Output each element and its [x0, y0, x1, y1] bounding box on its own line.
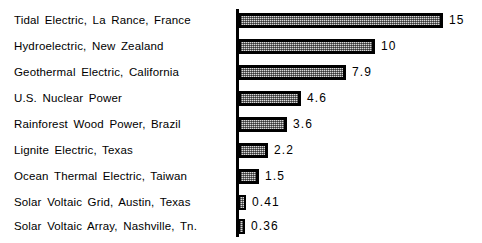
category-label: Solar Voltaic Array, Nashville, Tn. [14, 220, 230, 233]
bar-value-label: 15 [449, 14, 465, 27]
bar [238, 117, 287, 132]
chart-row: Lignite Electric, Texas 2.2 [0, 137, 482, 163]
bar-group: 2.2 [238, 137, 294, 163]
bar [238, 195, 246, 210]
chart-row: Solar Voltaic Grid, Austin, Texas 0.41 [0, 189, 482, 215]
bar-value-label: 10 [381, 40, 397, 53]
bar-group: 3.6 [238, 111, 313, 137]
bar-group: 4.6 [238, 85, 327, 111]
category-label: Tidal Electric, La Rance, France [14, 14, 230, 27]
bar-value-label: 3.6 [293, 118, 313, 131]
bar-group: 15 [238, 7, 465, 33]
bar [238, 39, 375, 54]
chart-row: Ocean Thermal Electric, Taiwan 1.5 [0, 163, 482, 189]
bar-chart: Tidal Electric, La Rance, France 15 Hydr… [0, 0, 482, 243]
category-label: Geothermal Electric, California [14, 66, 230, 79]
bar-group: 0.41 [238, 189, 280, 215]
bar-value-label: 0.36 [251, 220, 279, 233]
category-label: Ocean Thermal Electric, Taiwan [14, 170, 230, 183]
bar [238, 13, 443, 28]
chart-row: Tidal Electric, La Rance, France 15 [0, 7, 482, 33]
bar [238, 143, 268, 158]
bar [238, 65, 346, 80]
chart-row: U.S. Nuclear Power 4.6 [0, 85, 482, 111]
bar [238, 91, 301, 106]
bar [238, 219, 245, 234]
bar-value-label: 0.41 [252, 196, 280, 209]
bar-group: 0.36 [238, 213, 279, 239]
bar [238, 169, 259, 184]
bar-group: 1.5 [238, 163, 285, 189]
bar-group: 10 [238, 33, 397, 59]
category-label: U.S. Nuclear Power [14, 92, 230, 105]
bar-value-label: 1.5 [265, 170, 285, 183]
bar-value-label: 4.6 [307, 92, 327, 105]
category-label: Lignite Electric, Texas [14, 144, 230, 157]
chart-row: Solar Voltaic Array, Nashville, Tn. 0.36 [0, 213, 482, 239]
category-label: Hydroelectric, New Zealand [14, 40, 230, 53]
chart-row: Geothermal Electric, California 7.9 [0, 59, 482, 85]
bar-group: 7.9 [238, 59, 372, 85]
category-label: Solar Voltaic Grid, Austin, Texas [14, 196, 230, 209]
bar-value-label: 7.9 [352, 66, 372, 79]
category-label: Rainforest Wood Power, Brazil [14, 118, 230, 131]
bar-value-label: 2.2 [274, 144, 294, 157]
chart-row: Hydroelectric, New Zealand 10 [0, 33, 482, 59]
chart-row: Rainforest Wood Power, Brazil 3.6 [0, 111, 482, 137]
